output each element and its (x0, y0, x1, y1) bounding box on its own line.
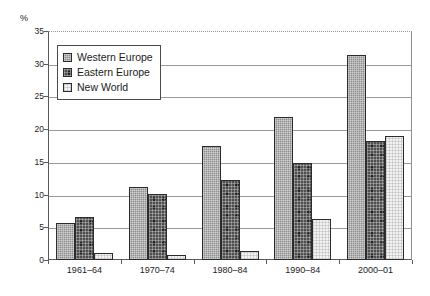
x-axis-tick-mark (121, 260, 122, 264)
x-axis-tick-label: 1961–64 (67, 264, 102, 276)
y-axis-tick-mark (44, 96, 48, 97)
bar (202, 146, 221, 261)
legend-item: New World (63, 80, 153, 95)
y-axis-tick-mark (44, 162, 48, 163)
bar (148, 194, 167, 260)
bar (75, 217, 94, 260)
legend-item-label: New World (77, 81, 128, 94)
x-axis-tick-mark (266, 260, 267, 264)
legend-swatch-icon (63, 83, 72, 92)
bar (240, 251, 259, 260)
y-axis-unit-label: % (20, 13, 28, 24)
x-axis-tick-mark (339, 260, 340, 264)
x-axis-tick-label: 1990–84 (285, 264, 320, 276)
bar-group (202, 31, 259, 260)
x-axis-tick-mark (412, 260, 413, 264)
bar (167, 255, 186, 260)
bar (274, 117, 293, 260)
y-axis-tick-mark (44, 31, 48, 32)
y-axis-tick-mark (44, 227, 48, 228)
bar-chart-figure: % 05101520253035 1961–641970–741980–8419… (0, 0, 430, 296)
y-axis-tick-label: 10 (22, 190, 44, 200)
bar-group (347, 31, 404, 260)
bar (366, 141, 385, 260)
y-axis-tick-mark (44, 129, 48, 130)
bar (221, 180, 240, 260)
chart-legend: Western EuropeEastern EuropeNew World (57, 45, 161, 100)
legend-item-label: Eastern Europe (77, 66, 150, 79)
legend-swatch-icon (63, 53, 72, 62)
bar (385, 136, 404, 260)
x-axis-tick-label: 2000–01 (358, 264, 393, 276)
legend-swatch-icon (63, 68, 72, 77)
bar (347, 55, 366, 260)
x-axis-tick-mark (48, 260, 49, 264)
bar (94, 253, 113, 260)
y-axis-tick-label: 30 (22, 59, 44, 69)
legend-item: Eastern Europe (63, 65, 153, 80)
y-axis-tick-label: 15 (22, 157, 44, 167)
y-axis-tick-mark (44, 195, 48, 196)
x-axis-tick-mark (194, 260, 195, 264)
y-axis-tick-label: 20 (22, 124, 44, 134)
x-axis-tick-label: 1980–84 (212, 264, 247, 276)
legend-item-label: Western Europe (77, 51, 153, 64)
bar (312, 219, 331, 260)
bar (56, 223, 75, 260)
x-axis-tick-labels: 1961–641970–741980–841990–842000–01 (48, 264, 412, 280)
y-axis-tick-label: 0 (22, 255, 44, 265)
y-axis-tick-mark (44, 64, 48, 65)
y-axis-tick-labels: 05101520253035 (18, 31, 44, 260)
legend-item: Western Europe (63, 50, 153, 65)
y-axis-tick-label: 25 (22, 91, 44, 101)
x-axis-tick-label: 1970–74 (140, 264, 175, 276)
y-axis-tick-label: 35 (22, 26, 44, 36)
bar (129, 187, 148, 260)
bar-group (274, 31, 331, 260)
y-axis-tick-label: 5 (22, 222, 44, 232)
bar (293, 163, 312, 260)
